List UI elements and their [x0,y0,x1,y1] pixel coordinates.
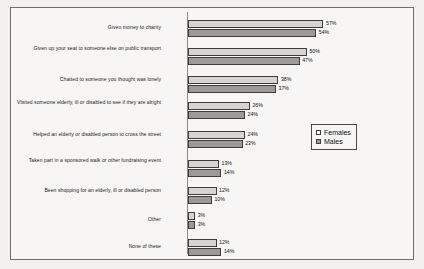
category-label: Visited someone elderly, ill or disabled… [11,99,161,105]
bar-value-females: 12% [219,187,229,194]
bar-value-females: 57% [326,20,336,27]
legend-item-males[interactable]: Males [316,137,351,146]
bar-value-females: 38% [281,76,291,83]
category-label: None of these [11,243,161,249]
bar-males[interactable] [188,85,276,93]
bar-value-females: 13% [222,160,232,167]
bar-females[interactable] [188,20,323,28]
bar-females[interactable] [188,239,217,247]
bar-value-males: 14% [224,169,234,176]
bar-males[interactable] [188,29,316,37]
legend-label-females: Females [324,128,351,137]
bar-value-females: 3% [198,212,206,219]
chart-legend: Females Males [311,124,357,150]
bar-males[interactable] [188,248,221,256]
bar-value-males: 10% [214,196,224,203]
bar-value-females: 26% [252,102,262,109]
bar-females[interactable] [188,212,195,220]
category-label: Taken part in a sponsored walk or other … [11,157,161,163]
bar-females[interactable] [188,48,307,56]
bar-value-females: 24% [248,131,258,138]
bar-females[interactable] [188,76,278,84]
legend-swatch-males-icon [316,139,321,144]
bar-males[interactable] [188,140,243,148]
category-label: Been shopping for an elderly, ill or dis… [11,187,161,193]
bar-males[interactable] [188,169,221,177]
bar-value-males: 24% [248,111,258,118]
legend-swatch-females-icon [316,130,321,135]
bar-females[interactable] [188,102,250,110]
bar-value-males: 47% [302,57,312,64]
bar-females[interactable] [188,160,219,168]
bar-males[interactable] [188,57,300,65]
category-label: Chatted to someone you thought was lonel… [11,76,161,82]
bar-value-males: 23% [245,140,255,147]
bar-females[interactable] [188,187,217,195]
legend-label-males: Males [324,137,343,146]
bar-value-males: 3% [198,221,206,228]
bar-males[interactable] [188,221,195,229]
chart-plot-area: Given money to charity 57% 54% Given up … [11,8,413,259]
screenshot-root: Given money to charity 57% 54% Given up … [0,0,424,269]
bar-males[interactable] [188,111,245,119]
category-label: Helped an elderly or disabled person to … [11,131,161,137]
bar-value-males: 37% [279,85,289,92]
legend-item-females[interactable]: Females [316,128,351,137]
category-label: Other [11,216,161,222]
bar-value-females: 50% [309,48,319,55]
bar-value-females: 12% [219,239,229,246]
bar-males[interactable] [188,196,212,204]
category-label: Given up your seat to someone else on pu… [11,45,161,51]
bar-value-males: 14% [224,248,234,255]
bar-value-males: 54% [319,29,329,36]
chart-frame: Given money to charity 57% 54% Given up … [10,7,414,260]
category-label: Given money to charity [11,24,161,30]
bar-females[interactable] [188,131,245,139]
